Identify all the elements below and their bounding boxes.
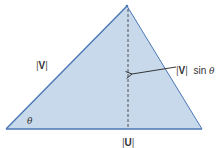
vector-u-symbol: U [125, 137, 132, 148]
sine-function: sin [193, 65, 206, 76]
abs-bar-close: | [185, 65, 188, 76]
height-label: |V| sin θ [176, 66, 214, 76]
apex-point [126, 5, 129, 8]
abs-bar-close: | [132, 137, 135, 148]
theta-symbol: θ [209, 66, 214, 76]
abs-bar-close: | [45, 60, 48, 71]
angle-label: θ [27, 116, 32, 126]
theta-symbol: θ [27, 116, 32, 126]
v-magnitude-label: |V| [36, 61, 48, 71]
u-magnitude-label: |U| [122, 138, 134, 148]
